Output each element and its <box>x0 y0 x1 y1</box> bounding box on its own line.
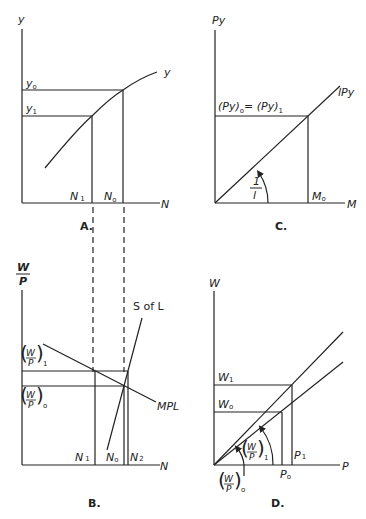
diagram-canvas: y y yo y1 N1 No N A. Py lPy (Py)o= (Py)1… <box>0 0 366 519</box>
panel-c: Py lPy (Py)o= (Py)1 1 l Mo M C. <box>212 14 357 233</box>
a-n0-label: No <box>104 190 117 204</box>
c-caption: C. <box>275 220 287 233</box>
d-p-axis-label: P <box>342 460 349 473</box>
a-y1-label: y1 <box>25 102 37 116</box>
svg-text:1: 1 <box>43 360 47 368</box>
c-lpy-label: lPy <box>338 86 355 99</box>
svg-text:P: P <box>28 400 34 410</box>
svg-text:P: P <box>249 452 255 462</box>
panel-b: W P S of L MPL ( W P ) 1 ( W P ) o N1 No… <box>16 261 179 510</box>
b-caption: B. <box>88 497 101 510</box>
d-angle0-label: ( W P ) o <box>218 468 245 494</box>
c-slope-den: l <box>253 189 256 202</box>
svg-text:o: o <box>43 402 47 410</box>
d-w0-label: Wo <box>218 398 233 411</box>
b-wp0-label: ( W P ) o <box>20 383 47 410</box>
d-p0-label: Po <box>280 468 291 481</box>
a-curve-label: y <box>163 66 171 79</box>
svg-text:W: W <box>224 474 234 484</box>
svg-text:P: P <box>226 484 232 494</box>
b-mpl-label: MPL <box>157 400 179 413</box>
d-w1-label: W1 <box>218 371 233 384</box>
a-production-curve <box>45 72 157 168</box>
c-m0-label: Mo <box>312 190 326 203</box>
d-angle1-label: ( W P ) 1 <box>241 436 268 462</box>
svg-text:W: W <box>26 390 36 400</box>
a-n1-label: N1 <box>70 190 85 203</box>
b-n2-label: N2 <box>130 451 144 464</box>
a-n-axis-label: N <box>161 198 169 211</box>
svg-text:W: W <box>247 442 257 452</box>
b-wp1-label: ( W P ) 1 <box>20 341 47 368</box>
a-y-axis-label: y <box>17 13 25 26</box>
svg-text:W: W <box>26 348 36 358</box>
b-axis-den: P <box>19 275 27 288</box>
svg-text:1: 1 <box>264 454 268 462</box>
c-slope-num: 1 <box>253 175 260 188</box>
b-n1-label: N1 <box>75 451 90 464</box>
svg-text:o: o <box>241 486 245 494</box>
b-n0-label: No <box>106 451 119 464</box>
a-caption: A. <box>80 220 93 233</box>
b-supply-label: S of L <box>133 300 165 313</box>
c-m-axis-label: M <box>347 198 357 211</box>
panel-d: W W1 Wo ( W P ) 1 ( W P ) o P1 Po P D. <box>209 277 349 510</box>
a-y0-label: yo <box>25 77 37 91</box>
d-ray-wp0 <box>214 332 343 465</box>
d-w-axis-label: W <box>209 277 221 290</box>
d-caption: D. <box>271 497 284 510</box>
c-py-axis-label: Py <box>212 14 226 27</box>
panel-a: y y yo y1 N1 No N A. <box>17 13 171 233</box>
c-py-level-label: (Py)o= (Py)1 <box>218 100 283 115</box>
svg-text:P: P <box>28 358 34 368</box>
b-axis-num: W <box>17 261 30 274</box>
d-p1-label: P1 <box>294 449 306 462</box>
b-n-axis-label: N <box>160 460 168 473</box>
b-mpl-curve <box>43 344 156 402</box>
